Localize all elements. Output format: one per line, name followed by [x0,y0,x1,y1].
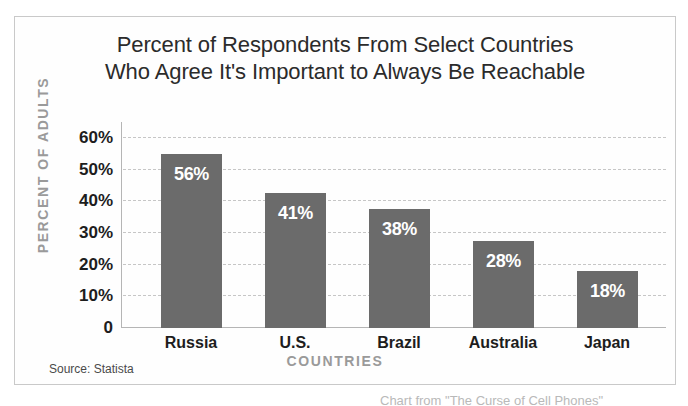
chart-title-line-1: Percent of Respondents From Select Count… [15,31,675,58]
y-axis-tick-label: 50% [79,160,113,180]
x-axis-title: COUNTRIES [135,353,535,369]
bar-group: 28% [451,122,555,328]
bar-group: 41% [243,122,347,328]
y-axis-tick-label: 10% [79,286,113,306]
bar[interactable]: 56% [161,154,222,328]
y-axis-tick-label: 40% [79,191,113,211]
bars-layer: 56%41%38%28%18% [121,122,666,328]
bar[interactable]: 18% [577,271,638,328]
bar-value-label: 41% [265,203,326,224]
x-axis-category-label: Japan [555,334,659,352]
x-axis-category-label: Russia [139,334,243,352]
bar-value-label: 56% [161,164,222,185]
bar-group: 56% [139,122,243,328]
bar-value-label: 28% [473,251,534,272]
y-axis-tick-label: 30% [79,223,113,243]
y-axis-tick-label: 20% [79,255,113,275]
bar-group: 38% [347,122,451,328]
x-axis-category-label: Australia [451,334,555,352]
chart-frame: Percent of Respondents From Select Count… [14,16,676,385]
source-note: Source: Statista [49,362,134,376]
bar-value-label: 18% [577,281,638,302]
bar-group: 18% [555,122,659,328]
bar[interactable]: 41% [265,193,326,328]
bottom-caption-cutoff: Chart from "The Curse of Cell Phones" [380,393,680,406]
y-axis-tick-label: 60% [79,128,113,148]
plot-area: 010%20%30%40%50%60% 56%41%38%28%18% Russ… [121,122,666,328]
chart-title: Percent of Respondents From Select Count… [15,31,675,85]
x-axis-category-label: U.S. [243,334,347,352]
bar[interactable]: 38% [369,209,430,328]
bar-value-label: 38% [369,219,430,240]
chart-title-line-2: Who Agree It's Important to Always Be Re… [15,58,675,85]
y-axis-title: PERCENT OF ADULTS [35,65,51,265]
x-axis-category-label: Brazil [347,334,451,352]
y-axis-tick-label: 0 [104,318,113,338]
bar[interactable]: 28% [473,241,534,328]
